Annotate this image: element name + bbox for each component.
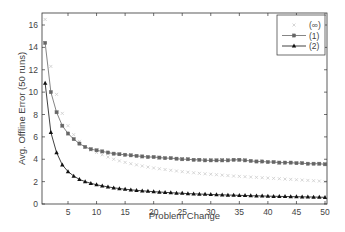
y-tick-label: 4: [33, 154, 38, 164]
x-marker: [204, 172, 207, 175]
square-marker: [89, 148, 92, 151]
triangle-marker: [43, 81, 47, 85]
square-marker: [312, 162, 315, 165]
square-marker: [221, 159, 224, 162]
x-marker: [44, 18, 47, 21]
square-marker: [135, 154, 138, 157]
x-tick-label: 50: [320, 207, 330, 217]
x-marker: [249, 176, 252, 179]
x-marker: [106, 156, 109, 159]
y-tick-label: 16: [29, 20, 39, 30]
x-marker: [238, 175, 241, 178]
x-marker: [198, 172, 201, 175]
square-marker: [152, 155, 155, 158]
x-marker: [135, 163, 138, 166]
line-chart: 51015202530354045500246810121416 Problem…: [0, 0, 345, 232]
x-marker: [318, 180, 321, 183]
square-marker: [266, 160, 269, 163]
x-marker: [244, 175, 247, 178]
square-marker: [261, 160, 264, 163]
square-marker: [249, 159, 252, 162]
y-axis-label: Avg. Offline Error (50 runs): [16, 52, 27, 165]
x-marker: [55, 93, 58, 96]
square-marker: [283, 161, 286, 164]
legend: (∞) (1) (2): [277, 15, 325, 55]
x-tick-label: 40: [263, 207, 273, 217]
x-marker: [215, 173, 218, 176]
square-marker: [301, 162, 304, 165]
triangle-marker: [77, 177, 81, 181]
y-tick-label: 2: [33, 177, 38, 187]
x-marker: [289, 178, 292, 181]
square-marker: [278, 161, 281, 164]
square-marker: [78, 142, 81, 145]
x-marker: [146, 166, 149, 169]
square-marker: [49, 91, 52, 94]
square-marker: [215, 159, 218, 162]
x-marker: [61, 112, 64, 115]
x-marker: [124, 161, 127, 164]
square-marker: [141, 155, 144, 158]
x-marker: [301, 179, 304, 182]
x-marker: [158, 167, 161, 170]
x-marker: [181, 170, 184, 173]
x-marker: [192, 171, 195, 174]
square-marker: [124, 153, 127, 156]
square-marker: [175, 157, 178, 160]
square-marker: [243, 159, 246, 162]
x-marker: [141, 164, 144, 167]
square-marker: [255, 160, 258, 163]
x-marker: [278, 177, 281, 180]
square-marker: [163, 157, 166, 160]
square-marker: [192, 158, 195, 161]
square-marker: [129, 154, 132, 157]
square-marker: [306, 162, 309, 165]
x-marker: [255, 176, 258, 179]
x-marker: [295, 178, 298, 181]
x-marker: [164, 168, 167, 171]
x-marker: [266, 177, 269, 180]
x-marker: [284, 178, 287, 181]
x-marker: [129, 162, 132, 165]
triangle-marker: [60, 162, 64, 166]
square-marker: [146, 155, 149, 158]
x-tick-label: 10: [92, 207, 102, 217]
legend-label: (1): [309, 31, 320, 41]
square-marker: [72, 138, 75, 141]
square-marker: [169, 157, 172, 160]
x-marker: [175, 169, 178, 172]
x-tick-label: 45: [292, 207, 302, 217]
square-marker: [289, 161, 292, 164]
x-tick-label: 15: [120, 207, 130, 217]
square-marker: [95, 149, 98, 152]
square-marker: [232, 158, 235, 161]
series-line: [45, 43, 325, 164]
square-marker: [101, 150, 104, 153]
triangle-marker: [72, 174, 76, 178]
x-marker: [272, 177, 275, 180]
square-marker: [181, 158, 184, 161]
x-axis-label: Problem Change: [149, 210, 220, 221]
x-marker: [112, 158, 115, 161]
x-marker: [49, 65, 52, 68]
y-tick-label: 12: [29, 65, 39, 75]
square-marker: [238, 158, 241, 161]
x-marker: [306, 179, 309, 182]
square-marker: [84, 145, 87, 148]
square-marker: [158, 156, 161, 159]
y-tick-label: 10: [29, 87, 39, 97]
x-marker: [152, 166, 155, 169]
square-marker: [292, 34, 295, 37]
triangle-marker: [49, 130, 53, 134]
square-marker: [186, 158, 189, 161]
x-marker: [312, 179, 315, 182]
square-marker: [323, 163, 326, 166]
series-line: [45, 83, 325, 197]
y-tick-label: 8: [33, 110, 38, 120]
legend-label: (∞): [309, 20, 321, 30]
x-marker: [221, 174, 224, 177]
square-marker: [318, 162, 321, 165]
square-marker: [226, 159, 229, 162]
x-marker: [186, 171, 189, 174]
square-marker: [118, 153, 121, 156]
